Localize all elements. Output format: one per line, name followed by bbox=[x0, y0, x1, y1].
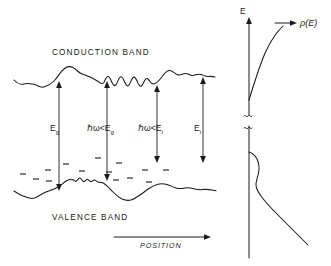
left-panel-band-diagram: CONDUCTION BAND VALENCE BAND bbox=[14, 48, 216, 250]
transition-arrow-eg bbox=[56, 81, 62, 191]
arrowhead-down bbox=[154, 156, 160, 163]
valence-band-label: VALENCE BAND bbox=[52, 213, 128, 222]
arrowhead-up bbox=[200, 77, 206, 84]
arrowhead-up bbox=[56, 81, 62, 88]
valence-dos-curve bbox=[249, 152, 308, 245]
rho-axis bbox=[275, 20, 297, 26]
arrowhead-down bbox=[200, 156, 206, 163]
transition-label-ei: Ei bbox=[194, 123, 201, 135]
figure-canvas: CONDUCTION BAND VALENCE BAND bbox=[0, 0, 331, 266]
band-diagram-figure: CONDUCTION BAND VALENCE BAND bbox=[0, 0, 331, 266]
transition-label-eg: Eg bbox=[50, 123, 60, 135]
valence-band-edge bbox=[14, 178, 216, 200]
localized-state-dashes bbox=[20, 158, 169, 182]
conduction-dos-curve bbox=[249, 26, 283, 100]
conduction-band-edge bbox=[14, 67, 215, 88]
rho-axis-label: ρ(E) bbox=[299, 18, 317, 28]
conduction-band-label: CONDUCTION BAND bbox=[52, 48, 150, 57]
arrowhead-right bbox=[204, 234, 211, 240]
arrowhead-up bbox=[104, 81, 110, 88]
axis-break-upper bbox=[244, 115, 252, 116]
position-axis-label: POSITION bbox=[140, 241, 182, 250]
axis-break-lower bbox=[244, 127, 252, 128]
position-axis bbox=[114, 234, 211, 240]
arrowhead-down bbox=[104, 174, 110, 181]
transition-label-hbar-omega-lt-eg: ℏω<Eg bbox=[87, 123, 114, 135]
transition-label-hbar-omega-lt-ei: ℏω<Ei bbox=[138, 123, 163, 135]
arrowhead-right bbox=[290, 20, 297, 26]
right-panel-density-of-states: E ρ(E) bbox=[240, 6, 317, 258]
energy-axis-label: E bbox=[240, 6, 246, 16]
transition-arrow-ei bbox=[200, 77, 206, 163]
arrowhead-up bbox=[246, 17, 252, 24]
arrowhead-up bbox=[154, 85, 160, 92]
